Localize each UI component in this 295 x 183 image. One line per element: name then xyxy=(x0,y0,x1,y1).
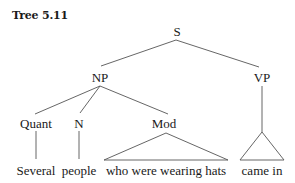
node-np: NP xyxy=(92,70,109,85)
node-vp: VP xyxy=(254,70,271,85)
leaf-came-in: came in xyxy=(242,163,283,178)
node-s: S xyxy=(173,24,180,39)
tree-edges xyxy=(35,40,284,160)
leaf-several: Several xyxy=(17,163,56,178)
edge-s-np xyxy=(101,40,176,66)
leaf-mod-phrase: who were wearing hats xyxy=(106,163,226,178)
edge-np-mod xyxy=(100,86,168,114)
edge-s-vp xyxy=(176,40,259,67)
node-n: N xyxy=(74,116,84,131)
node-mod: Mod xyxy=(152,116,177,131)
mod-triangle xyxy=(104,133,228,160)
syntax-tree: S NP VP Quant N Mod Several people who w… xyxy=(0,0,295,183)
vp-triangle xyxy=(240,132,284,160)
node-quant: Quant xyxy=(20,116,52,131)
leaf-people: people xyxy=(62,163,97,178)
edge-np-quant xyxy=(35,86,100,114)
